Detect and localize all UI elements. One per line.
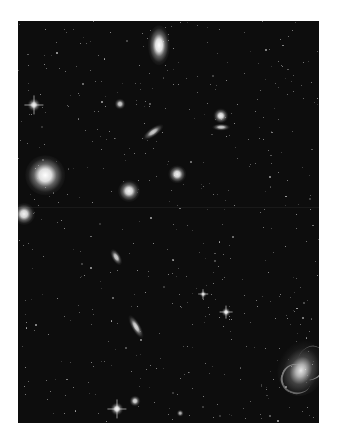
star-icon	[165, 27, 166, 28]
star-icon	[219, 415, 221, 417]
star-icon	[64, 29, 65, 30]
star-icon	[279, 296, 280, 297]
star-icon	[78, 305, 79, 306]
star-icon	[310, 195, 311, 196]
star-icon	[144, 106, 145, 107]
star-icon	[183, 184, 185, 186]
star-icon	[19, 240, 20, 241]
star-icon	[219, 241, 221, 243]
star-icon	[61, 220, 62, 221]
star-icon	[311, 149, 313, 151]
star-icon	[100, 281, 101, 282]
star-icon	[68, 168, 70, 170]
star-icon	[31, 299, 32, 300]
star-icon	[171, 26, 172, 27]
star-icon	[110, 272, 111, 273]
star-icon	[159, 333, 160, 334]
star-icon	[56, 42, 57, 43]
star-icon	[293, 277, 294, 278]
star-icon	[237, 158, 238, 159]
star-icon	[149, 180, 150, 181]
star-icon	[215, 89, 216, 90]
star-icon	[86, 43, 87, 44]
star-icon	[117, 323, 118, 324]
star-icon	[139, 386, 140, 387]
star-icon	[285, 78, 286, 79]
diffraction-spike-icon	[34, 95, 35, 114]
star-icon	[201, 188, 203, 190]
star-icon	[217, 53, 218, 54]
star-icon	[22, 346, 23, 347]
star-icon	[219, 29, 220, 30]
star-icon	[296, 228, 297, 229]
star-icon	[149, 387, 150, 388]
star-icon	[312, 225, 314, 227]
star-icon	[163, 368, 164, 369]
star-icon	[228, 190, 229, 191]
star-icon	[269, 176, 271, 178]
star-icon	[122, 229, 123, 230]
star-icon	[84, 275, 85, 276]
diffraction-spike-icon	[226, 306, 227, 319]
star-icon	[39, 147, 40, 148]
star-icon	[26, 322, 27, 323]
star-icon	[275, 318, 276, 319]
star-icon	[139, 65, 140, 66]
star-icon	[240, 367, 242, 369]
star-icon	[105, 96, 106, 97]
star-icon	[254, 347, 255, 348]
star-icon	[250, 164, 251, 165]
star-icon	[265, 348, 266, 349]
star-icon	[64, 413, 65, 414]
star-icon	[307, 300, 308, 301]
star-icon	[282, 45, 284, 47]
star-icon	[213, 283, 214, 284]
star-icon	[229, 316, 230, 317]
star-icon	[287, 318, 288, 319]
star-icon	[204, 322, 205, 323]
star-icon	[135, 83, 136, 84]
star-icon	[190, 161, 192, 163]
star-icon	[24, 386, 25, 387]
star-icon	[229, 245, 230, 246]
star-icon	[162, 132, 163, 133]
star-icon	[223, 254, 224, 255]
star-icon	[281, 152, 282, 153]
star-icon	[261, 418, 262, 419]
star-icon	[294, 292, 295, 293]
star-icon	[44, 144, 45, 145]
star-icon	[172, 419, 173, 420]
star-icon	[226, 136, 227, 137]
star-icon	[306, 241, 307, 242]
star-icon	[223, 326, 224, 327]
star-icon	[187, 22, 188, 23]
star-icon	[260, 212, 261, 213]
star-icon	[167, 70, 168, 71]
star-icon	[318, 239, 319, 240]
star-icon	[34, 330, 35, 331]
star-icon	[222, 279, 223, 280]
star-icon	[296, 214, 297, 215]
star-icon	[88, 382, 89, 383]
star-icon	[189, 415, 190, 416]
star-icon	[28, 90, 29, 91]
star-icon	[104, 58, 106, 60]
star-icon	[314, 102, 315, 103]
galaxy-pair-upper-right-a	[213, 108, 228, 123]
star-icon	[101, 81, 102, 82]
star-icon	[122, 83, 123, 84]
plate-seam	[18, 207, 319, 208]
star-icon	[192, 388, 193, 389]
edge-on-galaxy-lower	[126, 313, 147, 340]
star-icon	[295, 22, 296, 23]
star-icon	[79, 95, 80, 96]
star-icon	[242, 279, 243, 280]
star-icon	[232, 236, 234, 238]
star-icon	[303, 62, 304, 63]
star-icon	[203, 243, 204, 244]
star-icon	[90, 236, 92, 238]
star-icon	[21, 121, 22, 122]
star-icon	[181, 307, 182, 308]
star-icon	[95, 81, 97, 83]
star-icon	[234, 205, 236, 207]
